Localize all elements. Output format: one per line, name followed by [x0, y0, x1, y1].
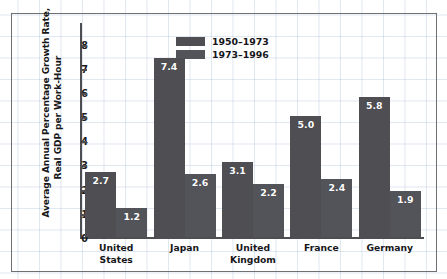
bar-value-label: 7.4 — [154, 61, 185, 72]
bar-united-kingdom-series-2: 2.2 — [253, 184, 284, 237]
bar-value-label: 1.2 — [116, 211, 147, 222]
bar-value-label: 5.8 — [359, 100, 390, 111]
bar-united-kingdom-series-1: 3.1 — [222, 162, 253, 237]
bar-value-label: 2.7 — [85, 175, 116, 186]
bar-value-label: 2.6 — [185, 177, 216, 188]
category-label-line: Kingdom — [220, 254, 286, 266]
bar-group-germany: 5.81.9 — [359, 29, 421, 237]
x-axis-line — [80, 237, 424, 239]
bar-japan-series-1: 7.4 — [154, 58, 185, 237]
bar-germany-series-2: 1.9 — [390, 191, 421, 237]
bar-group-japan: 7.42.6 — [154, 29, 216, 237]
category-label-line: States — [83, 254, 149, 266]
bar-japan-series-2: 2.6 — [185, 174, 216, 237]
plot-area: 012345678 2.71.27.42.63.12.25.02.45.81.9 — [80, 29, 424, 239]
bar-value-label: 2.2 — [253, 187, 284, 198]
category-label-line: United — [83, 242, 149, 254]
category-label-line: United — [220, 242, 286, 254]
bar-group-united-states: 2.71.2 — [85, 29, 147, 237]
bar-united-states-series-1: 2.7 — [85, 172, 116, 237]
bar-germany-series-1: 5.8 — [359, 97, 390, 237]
category-label-line: France — [288, 242, 354, 254]
bar-value-label: 1.9 — [390, 194, 421, 205]
chart-page: Average Annual Percentage Growth Rate, R… — [0, 0, 447, 279]
bar-group-france: 5.02.4 — [290, 29, 352, 237]
bar-groups: 2.71.27.42.63.12.25.02.45.81.9 — [82, 29, 424, 237]
chart-frame: Average Annual Percentage Growth Rate, R… — [11, 13, 437, 272]
bar-value-label: 5.0 — [290, 119, 321, 130]
category-label-germany: Germany — [357, 242, 423, 266]
category-label-united-states: UnitedStates — [83, 242, 149, 266]
y-axis-title-line-1: Average Annual Percentage Growth Rate, — [41, 18, 53, 218]
category-label-france: France — [288, 242, 354, 266]
bar-france-series-1: 5.0 — [290, 116, 321, 237]
bar-value-label: 3.1 — [222, 165, 253, 176]
x-axis-category-labels: UnitedStatesJapanUnitedKingdomFranceGerm… — [82, 242, 424, 266]
category-label-united-kingdom: UnitedKingdom — [220, 242, 286, 266]
bar-united-states-series-2: 1.2 — [116, 208, 147, 237]
category-label-line: Germany — [357, 242, 423, 254]
category-label-japan: Japan — [152, 242, 218, 266]
bar-france-series-2: 2.4 — [321, 179, 352, 237]
bar-group-united-kingdom: 3.12.2 — [222, 29, 284, 237]
category-label-line: Japan — [152, 242, 218, 254]
bar-value-label: 2.4 — [321, 182, 352, 193]
